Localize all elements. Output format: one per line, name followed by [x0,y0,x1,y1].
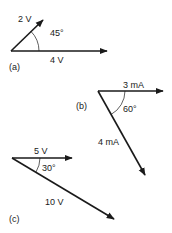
angle-label-45: 45° [50,28,64,38]
panel-c: 5 V 30° 10 V (c) [9,146,114,224]
angle-label-60: 60° [123,104,137,114]
angle-arc-30 [36,158,40,172]
label-2v: 2 V [18,14,32,24]
panel-a: 2 V 45° 4 V (a) [9,14,107,72]
vector-10v-arrow [12,158,114,219]
label-4v: 4 V [50,55,64,65]
angle-label-30: 30° [42,163,56,173]
angle-arc-45 [31,31,39,51]
vector-2v-arrow [11,20,43,51]
phasor-diagram: 2 V 45° 4 V (a) 3 mA 60° 4 mA (b) 5 V 30… [0,0,172,233]
label-10v: 10 V [45,197,64,207]
panel-label-a: (a) [9,62,20,72]
label-5v: 5 V [34,146,48,156]
label-4ma: 4 mA [98,137,119,147]
panel-b: 3 mA 60° 4 mA (b) [76,80,163,175]
panel-label-b: (b) [76,101,87,111]
label-3ma: 3 mA [123,80,144,90]
panel-label-c: (c) [9,214,20,224]
